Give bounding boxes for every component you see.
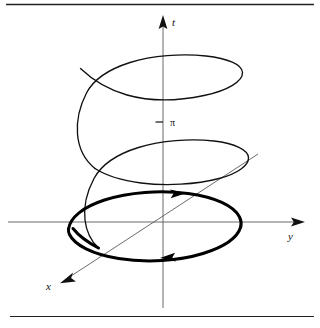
- y-axis-label: y: [287, 230, 293, 242]
- t-axis-label: t: [172, 16, 176, 28]
- helix-turn-upper: [77, 55, 242, 169]
- figure-container: π t y x: [0, 0, 320, 328]
- helix-turn-middle: [85, 140, 249, 248]
- helix-base-joint: [73, 229, 99, 249]
- direction-arrow-back: [170, 189, 186, 198]
- x-axis-label: x: [45, 280, 51, 292]
- pi-tick-label: π: [170, 117, 175, 128]
- base-ellipse-back: [69, 192, 242, 229]
- helix-diagram: π t y x: [0, 0, 320, 328]
